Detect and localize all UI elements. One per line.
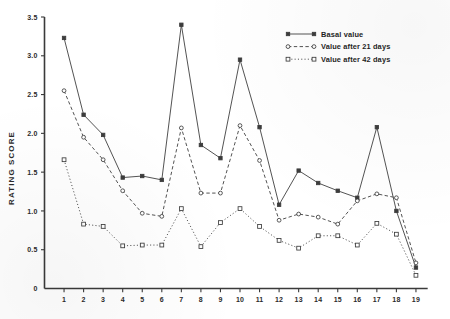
data-point-marker [414, 273, 418, 277]
legend-label: Value after 21 days [321, 42, 390, 51]
data-point-marker [395, 232, 399, 236]
data-point-marker [82, 222, 86, 226]
data-point-marker [277, 239, 281, 243]
data-point-marker [286, 32, 289, 35]
data-point-marker [414, 261, 418, 265]
x-tick-label: 18 [392, 296, 400, 303]
data-point-marker [121, 244, 125, 248]
data-point-marker [238, 58, 241, 61]
data-point-marker [258, 159, 262, 163]
data-point-marker [414, 266, 417, 269]
data-point-marker [219, 156, 222, 159]
x-tick-label: 19 [412, 296, 420, 303]
data-point-marker [140, 243, 144, 247]
data-point-marker [199, 245, 203, 249]
data-point-marker [375, 192, 379, 196]
data-point-marker [179, 207, 183, 211]
data-point-marker [62, 89, 66, 93]
data-point-marker [199, 143, 202, 146]
x-tick-label: 6 [160, 296, 164, 303]
data-point-marker [101, 133, 104, 136]
legend-item-1: Basal value [286, 30, 363, 39]
series-2 [62, 89, 418, 265]
y-tick-label: 2.0 [27, 130, 37, 137]
data-point-marker [62, 158, 66, 162]
data-point-marker [336, 222, 340, 226]
y-tick-label: 1.5 [27, 169, 37, 176]
x-tick-label: 16 [353, 296, 361, 303]
data-point-marker [395, 196, 399, 200]
data-point-marker [82, 135, 86, 139]
data-point-marker [180, 23, 183, 26]
y-axis-title: RATING SCORE [7, 131, 16, 205]
x-tick-label: 14 [314, 296, 322, 303]
x-tick-label: 7 [179, 296, 183, 303]
x-tick-label: 13 [295, 296, 303, 303]
data-point-marker [179, 126, 183, 130]
data-point-marker [238, 207, 242, 211]
data-point-marker [121, 176, 124, 179]
rating-score-line-chart: 00.51.01.52.02.53.03.5123456789101112131… [0, 0, 450, 319]
x-tick-label: 9 [218, 296, 222, 303]
x-tick-label: 3 [101, 296, 105, 303]
data-point-marker [286, 45, 290, 49]
legend-label: Value after 42 days [321, 55, 390, 64]
x-tick-label: 12 [275, 296, 283, 303]
data-point-marker [238, 124, 242, 128]
legend-label: Basal value [321, 30, 363, 39]
data-point-marker [297, 212, 301, 216]
data-point-marker [82, 113, 85, 116]
y-tick-label: 0 [33, 285, 37, 292]
x-tick-label: 2 [82, 296, 86, 303]
data-point-marker [355, 199, 359, 203]
legend-item-2: Value after 21 days [286, 42, 390, 51]
data-point-marker [258, 125, 261, 128]
data-point-marker [199, 191, 203, 195]
data-point-marker [375, 125, 378, 128]
y-tick-label: 1.0 [27, 208, 37, 215]
data-point-marker [395, 209, 398, 212]
data-point-marker [219, 191, 223, 195]
data-point-marker [277, 203, 280, 206]
data-point-marker [286, 57, 290, 61]
x-tick-label: 17 [373, 296, 381, 303]
x-tick-label: 1 [62, 296, 66, 303]
data-point-marker [312, 32, 315, 35]
data-point-marker [316, 234, 320, 238]
data-point-marker [297, 246, 301, 250]
data-point-marker [160, 178, 163, 181]
data-point-marker [101, 225, 105, 229]
data-point-marker [336, 189, 339, 192]
x-tick-label: 11 [256, 296, 264, 303]
data-point-marker [375, 221, 379, 225]
legend-item-3: Value after 42 days [286, 55, 390, 64]
data-point-marker [316, 215, 320, 219]
legend: Basal valueValue after 21 daysValue afte… [286, 30, 390, 64]
y-tick-label: 3.5 [27, 14, 37, 21]
data-point-marker [355, 243, 359, 247]
data-point-marker [160, 243, 164, 247]
x-tick-label: 5 [140, 296, 144, 303]
x-tick-label: 15 [334, 296, 342, 303]
x-tick-label: 4 [121, 296, 125, 303]
data-point-marker [336, 234, 340, 238]
data-point-marker [258, 225, 262, 229]
x-tick-label: 10 [236, 296, 244, 303]
data-point-marker [141, 174, 144, 177]
data-point-marker [101, 158, 105, 162]
data-point-marker [297, 169, 300, 172]
y-tick-label: 3.0 [27, 52, 37, 59]
data-point-marker [312, 57, 316, 61]
data-point-marker [312, 45, 316, 49]
data-point-marker [219, 221, 223, 225]
x-tick-label: 8 [199, 296, 203, 303]
data-point-marker [277, 218, 281, 222]
data-point-marker [160, 214, 164, 218]
y-tick-label: 2.5 [27, 91, 37, 98]
y-tick-label: 0.5 [27, 246, 37, 253]
series-3 [62, 158, 418, 277]
data-point-marker [62, 36, 65, 39]
chart-canvas: 00.51.01.52.02.53.03.5123456789101112131… [0, 0, 450, 319]
data-point-marker [140, 211, 144, 215]
data-point-marker [121, 189, 125, 193]
